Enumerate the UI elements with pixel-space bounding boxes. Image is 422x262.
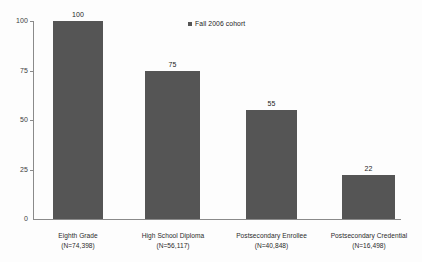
y-tick-25 <box>30 170 34 171</box>
x-label-n-eighth-grade: (N=74,398) <box>33 241 123 251</box>
x-label-postsecondary-enrollee: Postsecondary Enrollee (N=40,848) <box>225 231 318 250</box>
bar-value-eighth-grade: 100 <box>53 11 103 18</box>
x-label-text-postsecondary-credential: Postsecondary Credential <box>331 232 408 239</box>
x-label-n-high-school-diploma: (N=56,117) <box>127 241 219 251</box>
bar-value-postsecondary-enrollee: 55 <box>246 100 297 107</box>
x-axis-line <box>33 219 401 220</box>
x-label-text-high-school-diploma: High School Diploma <box>142 232 205 239</box>
bar-postsecondary-enrollee[interactable] <box>246 110 297 219</box>
bar-high-school-diploma[interactable] <box>145 71 200 220</box>
bar-value-high-school-diploma: 75 <box>145 61 200 68</box>
y-tick-50 <box>30 120 34 121</box>
x-label-n-postsecondary-enrollee: (N=40,848) <box>225 241 318 251</box>
bar-value-postsecondary-credential: 22 <box>342 165 395 172</box>
x-label-n-postsecondary-credential: (N=16,498) <box>320 241 418 251</box>
x-label-text-postsecondary-enrollee: Postsecondary Enrollee <box>236 232 307 239</box>
x-label-text-eighth-grade: Eighth Grade <box>58 232 97 239</box>
x-label-high-school-diploma: High School Diploma (N=56,117) <box>127 231 219 250</box>
y-tick-100 <box>30 21 34 22</box>
legend: Fall 2006 cohort <box>188 21 245 28</box>
x-label-eighth-grade: Eighth Grade (N=74,398) <box>33 231 123 250</box>
y-tick-label-25: 25 <box>2 166 28 173</box>
y-tick-label-100: 100 <box>2 17 28 24</box>
x-label-postsecondary-credential: Postsecondary Credential (N=16,498) <box>320 231 418 250</box>
legend-swatch-icon <box>188 22 192 26</box>
y-tick-label-0: 0 <box>2 215 28 222</box>
bar-eighth-grade[interactable] <box>53 21 103 219</box>
y-tick-label-75: 75 <box>2 67 28 74</box>
bar-chart: 100 75 50 25 0 Fall 2006 cohort 100 75 5… <box>0 0 422 262</box>
bar-postsecondary-credential[interactable] <box>342 175 395 219</box>
legend-label-fall-2006-cohort: Fall 2006 cohort <box>195 21 245 28</box>
y-tick-75 <box>30 71 34 72</box>
y-tick-label-50: 50 <box>2 116 28 123</box>
